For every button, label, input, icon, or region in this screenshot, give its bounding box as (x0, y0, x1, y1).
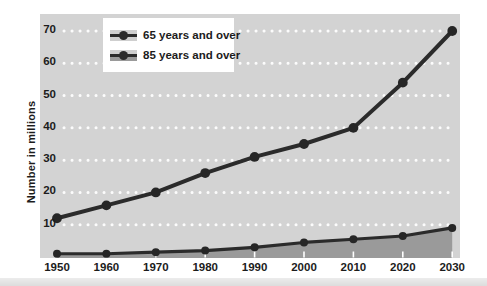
legend-item-65-and-over: 65 years and over (110, 29, 234, 41)
x-tick-label-2010: 2010 (329, 261, 377, 273)
chart-canvas (0, 0, 487, 286)
dot-marker-icon (119, 51, 128, 60)
x-tick-label-1970: 1970 (132, 261, 180, 273)
x-tick-label-2020: 2020 (379, 261, 427, 273)
legend-item-85-and-over: 85 years and over (110, 49, 234, 61)
legend-swatch-85-icon (110, 50, 137, 61)
x-tick-label-1980: 1980 (181, 261, 229, 273)
x-tick-label-1960: 1960 (82, 261, 130, 273)
y-tick-label-60: 60 (16, 55, 56, 67)
x-tick-label-1990: 1990 (231, 261, 279, 273)
y-tick-label-10: 10 (16, 217, 56, 229)
legend-label-85: 85 years and over (143, 49, 240, 61)
x-tick-label-2030: 2030 (428, 261, 476, 273)
page-edge-shadow (0, 278, 487, 286)
population-age-line-chart: Number in millions 10203040506070 195019… (0, 0, 487, 286)
x-tick-label-1950: 1950 (33, 261, 81, 273)
legend-label-65: 65 years and over (143, 29, 240, 41)
legend: 65 years and over 85 years and over (103, 18, 234, 72)
y-tick-label-30: 30 (16, 152, 56, 164)
y-tick-label-50: 50 (16, 88, 56, 100)
legend-swatch-65-icon (110, 30, 137, 41)
x-tick-label-2000: 2000 (280, 261, 328, 273)
y-tick-label-20: 20 (16, 184, 56, 196)
y-tick-label-40: 40 (16, 120, 56, 132)
dot-marker-icon (119, 31, 128, 40)
y-tick-label-70: 70 (16, 23, 56, 35)
